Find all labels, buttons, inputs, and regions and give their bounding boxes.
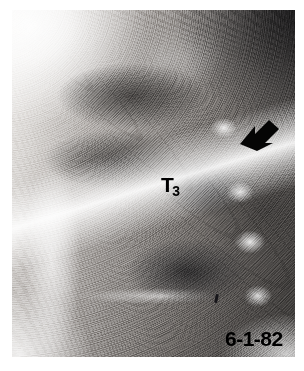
film-grain-overlay [12, 10, 295, 357]
posterior-element-band [12, 10, 295, 357]
upper-right-shadow [12, 10, 295, 357]
lower-left-highlight [12, 10, 295, 357]
posterior-node-d [12, 10, 295, 357]
vertebra-level-label: T3 [161, 174, 180, 198]
right-soft-tissue-shadow [12, 10, 295, 357]
vertebra-level-number: 3 [172, 183, 179, 199]
vertebral-body-shadow-2 [12, 10, 295, 357]
posterior-node-b [12, 10, 295, 357]
film-base-gradient [12, 10, 295, 357]
vertebral-body-shadow-4 [12, 10, 295, 357]
lower-right-highlight [12, 10, 295, 357]
vertebral-body-shadow-1 [12, 10, 295, 357]
anterior-soft-tissue-band [12, 10, 295, 357]
posterior-node-c [12, 10, 295, 357]
film-grain-overlay-secondary [12, 10, 295, 357]
exam-date-stamp: 6-1-82 [225, 328, 283, 349]
arrow-icon [238, 114, 284, 152]
upper-left-highlight [12, 10, 295, 357]
vertebral-body-shadow-3 [12, 10, 295, 357]
radiograph-image: T3 6-1-82 [12, 10, 295, 357]
figure-root: T3 6-1-82 [0, 0, 304, 371]
transverse-process-streak [12, 10, 295, 357]
posterior-node-a [12, 10, 295, 357]
endplate-highlight [12, 10, 295, 357]
tick-mark-icon [214, 294, 219, 303]
